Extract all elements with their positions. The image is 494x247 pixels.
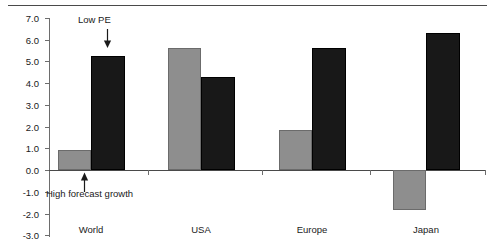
y-tick-1: 1.0 bbox=[45, 148, 49, 149]
y-tick-label-5: 5.0 bbox=[26, 58, 39, 68]
y-tick-5: 5.0 bbox=[45, 61, 49, 62]
x-tick-boundary-1 bbox=[148, 170, 149, 175]
x-category-label-world: World bbox=[79, 224, 104, 235]
top-rule-divider bbox=[8, 5, 487, 6]
x-category-label-japan: Japan bbox=[413, 224, 439, 235]
y-tick-label-neg1: -1.0 bbox=[23, 188, 39, 198]
y-tick-neg3: -3.0 bbox=[45, 235, 49, 236]
bar-usa-low-pe[interactable] bbox=[201, 77, 235, 170]
bar-japan-high-forecast-growth[interactable] bbox=[393, 170, 426, 210]
y-tick-label-1: 1.0 bbox=[26, 145, 39, 155]
annotation-low-pe-label: Low PE bbox=[78, 14, 111, 25]
bar-europe-high-forecast-growth[interactable] bbox=[279, 130, 312, 170]
annotation-high-forecast-growth-label: High forecast growth bbox=[46, 188, 133, 199]
x-category-label-usa: USA bbox=[191, 224, 211, 235]
y-tick-3: 3.0 bbox=[45, 105, 49, 106]
y-tick-2: 2.0 bbox=[45, 127, 49, 128]
y-tick-6: 6.0 bbox=[45, 40, 49, 41]
x-tick-boundary-2 bbox=[262, 170, 263, 175]
x-tick-boundary-3 bbox=[370, 170, 371, 175]
x-tick-boundary-4 bbox=[485, 170, 486, 175]
y-tick-0: 0.0 bbox=[45, 170, 49, 171]
y-tick-7: 7.0 bbox=[45, 18, 49, 19]
y-tick-label-7: 7.0 bbox=[26, 14, 39, 24]
arrow-up-icon bbox=[80, 172, 89, 192]
y-tick-4: 4.0 bbox=[45, 83, 49, 84]
y-tick-label-3: 3.0 bbox=[26, 101, 39, 111]
chart-figure: 7.0 6.0 5.0 4.0 3.0 2.0 1.0 0.0 -1.0 -2.… bbox=[0, 0, 494, 247]
x-category-label-europe: Europe bbox=[297, 224, 328, 235]
y-tick-label-2: 2.0 bbox=[26, 123, 39, 133]
y-tick-label-0: 0.0 bbox=[26, 166, 39, 176]
y-tick-label-4: 4.0 bbox=[26, 79, 39, 89]
arrow-down-icon bbox=[103, 29, 112, 49]
y-tick-label-neg2: -2.0 bbox=[23, 210, 39, 220]
bar-europe-low-pe[interactable] bbox=[312, 48, 346, 170]
y-tick-label-6: 6.0 bbox=[26, 36, 39, 46]
bar-world-high-forecast-growth[interactable] bbox=[58, 150, 91, 171]
y-axis-line bbox=[49, 18, 50, 237]
y-tick-neg2: -2.0 bbox=[45, 214, 49, 215]
bar-usa-high-forecast-growth[interactable] bbox=[168, 48, 201, 170]
plot-area: 7.0 6.0 5.0 4.0 3.0 2.0 1.0 0.0 -1.0 -2.… bbox=[49, 18, 486, 237]
y-tick-label-neg3: -3.0 bbox=[23, 232, 39, 242]
bar-world-low-pe[interactable] bbox=[91, 56, 125, 170]
bar-japan-low-pe[interactable] bbox=[426, 33, 460, 170]
